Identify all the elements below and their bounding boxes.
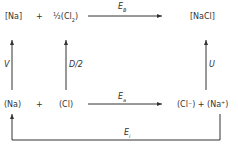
ie-sub: i: [129, 133, 130, 139]
cl-gas: (Cl): [59, 100, 73, 110]
sublimation-label: V: [4, 60, 9, 70]
ionization-label: Ei: [124, 128, 130, 141]
nacl-solid: [NaCl]: [190, 12, 215, 22]
plus-top: +: [36, 12, 43, 22]
half-cl2: ½(Cl2): [53, 12, 78, 25]
na-gas: (Na): [4, 100, 21, 110]
electron-affinity-label: Ea: [118, 92, 126, 105]
lattice-label: U: [209, 60, 215, 70]
ionization-arrow: [12, 114, 220, 140]
plus-bottom: +: [36, 100, 43, 110]
dissociation-label: D/2: [69, 60, 83, 70]
na-solid: [Na]: [5, 12, 22, 22]
formation-sub: B: [123, 7, 126, 13]
formation-label: EB: [118, 2, 127, 15]
cl2-label: (Cl: [61, 12, 72, 21]
ea-sub: a: [123, 97, 126, 103]
ions: (Cl⁻) + (Na⁺): [177, 100, 228, 110]
cl2-close: ): [75, 12, 78, 21]
half-coefficient: ½: [53, 12, 61, 21]
